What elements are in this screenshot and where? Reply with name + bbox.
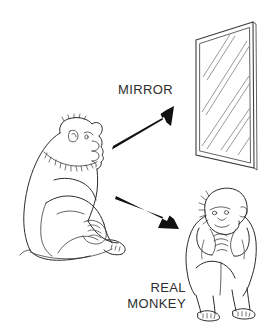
monkey-mirror-diagram: MIRROR REAL MONKEY	[0, 0, 271, 335]
real-monkey-label-line2: MONKEY	[127, 296, 186, 311]
real-monkey-label-line1: REAL	[150, 280, 186, 295]
mirror-label: MIRROR	[118, 82, 173, 97]
figure-root: MIRROR REAL MONKEY	[0, 0, 271, 335]
mirror-panel	[196, 22, 257, 170]
